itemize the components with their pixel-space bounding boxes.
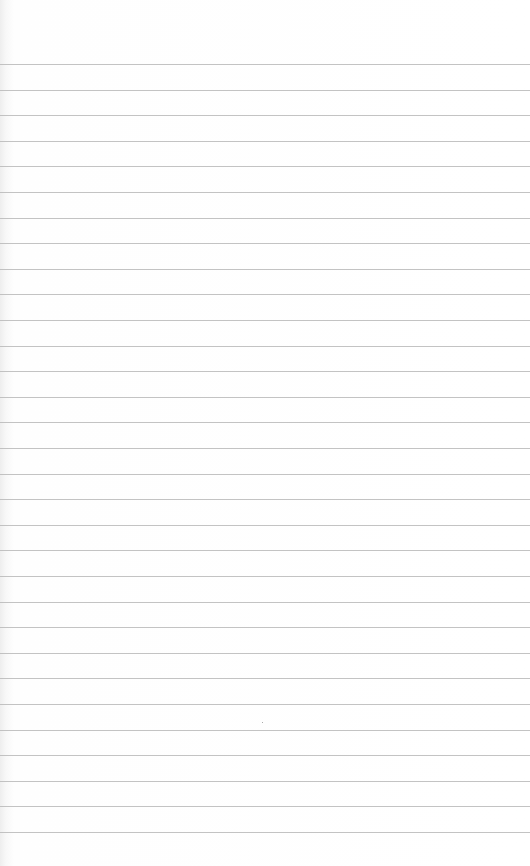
ruled-line [0,192,530,193]
ruled-line [0,371,530,372]
paper-speck [262,722,263,723]
ruled-line [0,141,530,142]
ruled-line [0,730,530,731]
ruled-line [0,320,530,321]
lined-paper-page [0,0,530,866]
ruled-line [0,448,530,449]
ruled-line [0,243,530,244]
ruled-line [0,397,530,398]
ruled-line [0,269,530,270]
ruled-line [0,627,530,628]
ruled-line [0,602,530,603]
ruled-line [0,422,530,423]
ruled-line [0,64,530,65]
ruled-line [0,346,530,347]
ruled-line [0,525,530,526]
ruled-line [0,294,530,295]
ruled-line [0,550,530,551]
ruled-line [0,499,530,500]
ruled-line [0,474,530,475]
ruled-line [0,806,530,807]
ruled-line [0,115,530,116]
ruled-line [0,90,530,91]
ruled-line [0,755,530,756]
ruled-line [0,832,530,833]
ruled-line [0,704,530,705]
ruled-line [0,781,530,782]
ruled-line [0,653,530,654]
ruled-line [0,576,530,577]
ruled-line [0,678,530,679]
ruled-line [0,218,530,219]
ruled-line [0,166,530,167]
